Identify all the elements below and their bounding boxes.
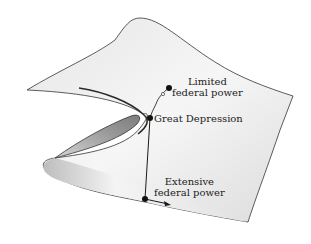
point-extensive-federal-power (142, 196, 148, 202)
label-great-depression: Great Depression (154, 113, 243, 124)
label-extensive-line2: federal power (154, 187, 225, 198)
point-great-depression (147, 115, 153, 121)
label-limited-federal-power: Limited federal power (172, 76, 243, 98)
label-extensive-line1: Extensive (154, 176, 225, 187)
label-limited-line1: Limited (172, 76, 243, 87)
label-extensive-federal-power: Extensive federal power (154, 176, 225, 198)
label-great-depression-text: Great Depression (154, 113, 243, 124)
cusp-catastrophe-diagram: Limited federal power Great Depression E… (0, 0, 311, 244)
open-marker (161, 92, 164, 95)
label-limited-line2: federal power (172, 87, 243, 98)
